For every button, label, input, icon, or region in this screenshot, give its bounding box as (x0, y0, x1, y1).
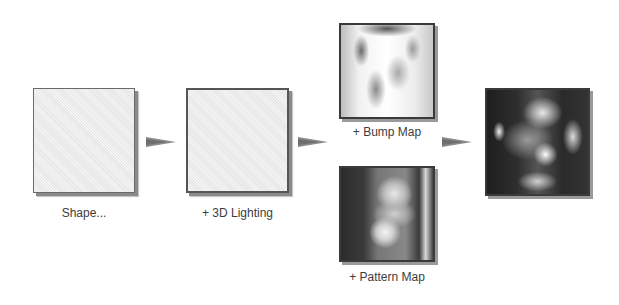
bump-map-box (339, 23, 435, 119)
pattern-map-box (339, 166, 435, 262)
bump-map-label: + Bump Map (335, 125, 439, 139)
lighting-label: + 3D Lighting (180, 206, 295, 220)
arrow-shape-to-lighting (146, 137, 176, 147)
result-box (485, 88, 590, 196)
arrow-bump-to-result (442, 137, 472, 147)
pattern-map-label: + Pattern Map (330, 270, 444, 284)
arrow-lighting-to-bump (298, 137, 328, 147)
shape-label: Shape... (33, 206, 135, 220)
shape-box (33, 88, 135, 193)
lighting-box (186, 88, 289, 193)
